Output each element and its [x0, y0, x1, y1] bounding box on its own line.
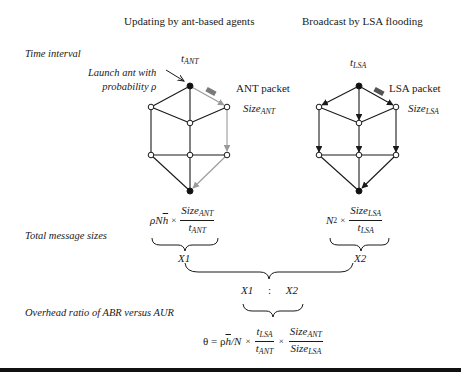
- right-nodes: [316, 83, 399, 194]
- x2-brace: [330, 238, 389, 251]
- left-network-graph: [151, 86, 227, 191]
- combine-brace: [185, 263, 353, 279]
- ratio-expression: X1 : X2: [241, 284, 298, 296]
- x2-formula: N2 × SizeLSA tLSA: [326, 205, 383, 235]
- bottom-rule: [0, 368, 461, 372]
- x1-label: X1: [178, 252, 190, 264]
- x2-label: X2: [354, 252, 366, 264]
- x1-brace: [152, 238, 218, 251]
- ant-packet-icon: [205, 87, 216, 96]
- left-nodes: [148, 83, 230, 194]
- launch-pointer-arrow: [166, 70, 184, 81]
- ratio-brace: [243, 304, 303, 317]
- x1-formula: ρNh × SizeANT tANT: [150, 205, 215, 235]
- right-network-graph: [319, 86, 396, 191]
- ant-path: [190, 86, 227, 188]
- diagram-graphics: [0, 0, 461, 377]
- theta-formula: θ = ρh/N × tLSA tANT × SizeANT SizeLSA: [203, 326, 324, 356]
